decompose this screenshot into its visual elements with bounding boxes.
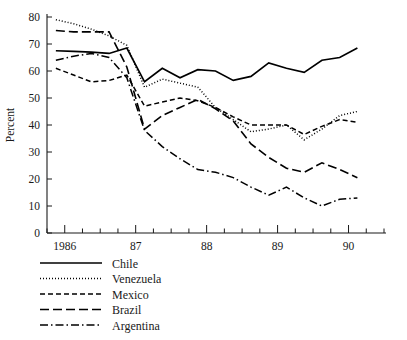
y-tick-label: 30	[29, 146, 41, 158]
series-line-mexico	[56, 68, 358, 134]
y-tick-label: 20	[29, 173, 41, 185]
y-tick-label: 80	[29, 11, 41, 23]
y-tick-marks	[47, 17, 52, 233]
chart-figure: 01020304050607080 Percent 198687888990 C…	[0, 0, 407, 340]
x-axis-group: 198687888990	[47, 225, 386, 252]
legend-label-argentina: Argentina	[112, 319, 160, 333]
y-axis-group: 01020304050607080 Percent	[4, 11, 52, 239]
chart-legend: ChileVenezuelaMexicoBrazilArgentina	[40, 257, 162, 333]
x-tick-label: 90	[343, 240, 355, 252]
x-tick-label: 1986	[53, 240, 76, 252]
legend-label-brazil: Brazil	[112, 303, 142, 317]
series-line-venezuela	[56, 20, 358, 140]
series-line-chile	[56, 48, 358, 82]
chart-canvas: 01020304050607080 Percent 198687888990 C…	[0, 0, 407, 340]
x-tick-label: 87	[130, 240, 142, 252]
legend-label-mexico: Mexico	[112, 288, 149, 302]
x-tick-labels: 198687888990	[53, 240, 354, 252]
y-tick-label: 10	[29, 200, 41, 212]
x-tick-label: 88	[201, 240, 213, 252]
x-tick-marks	[47, 225, 384, 233]
legend-label-chile: Chile	[112, 257, 138, 271]
y-tick-label: 0	[34, 227, 40, 239]
data-series-group	[56, 20, 358, 206]
y-tick-label: 40	[29, 119, 41, 131]
y-tick-label: 70	[29, 38, 41, 50]
x-tick-label: 89	[272, 240, 284, 252]
legend-label-venezuela: Venezuela	[112, 272, 162, 286]
y-tick-label: 60	[29, 65, 41, 77]
y-tick-labels: 01020304050607080	[29, 11, 41, 239]
series-line-argentina	[56, 53, 358, 206]
y-axis-title: Percent	[4, 107, 16, 142]
y-tick-label: 50	[29, 92, 41, 104]
